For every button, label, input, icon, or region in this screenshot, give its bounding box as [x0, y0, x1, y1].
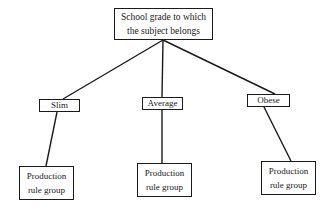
- edge-root-obese: [163, 40, 275, 94]
- tree-diagram: School grade to which the subject belong…: [0, 0, 332, 210]
- leaf-node-slim-production-rules: Production rule group: [19, 166, 74, 200]
- leaf-label-average: Production rule group: [145, 166, 185, 194]
- edge-root-slim: [63, 40, 163, 99]
- category-label-obese: Obese: [257, 95, 280, 106]
- edge-slim-leaf: [46, 112, 57, 166]
- edge-obese-leaf: [264, 107, 291, 161]
- category-label-slim: Slim: [51, 100, 68, 111]
- root-node-label: School grade to which the subject belong…: [121, 10, 206, 38]
- category-node-slim: Slim: [39, 99, 80, 112]
- leaf-label-obese: Production rule group: [269, 164, 309, 192]
- edge-root-average: [162, 40, 163, 97]
- leaf-node-average-production-rules: Production rule group: [137, 163, 192, 197]
- root-node-school-grade: School grade to which the subject belong…: [114, 8, 213, 40]
- category-label-average: Average: [148, 98, 178, 109]
- category-node-obese: Obese: [247, 94, 290, 107]
- category-node-average: Average: [142, 97, 183, 110]
- leaf-node-obese-production-rules: Production rule group: [261, 161, 316, 195]
- leaf-label-slim: Production rule group: [27, 169, 67, 197]
